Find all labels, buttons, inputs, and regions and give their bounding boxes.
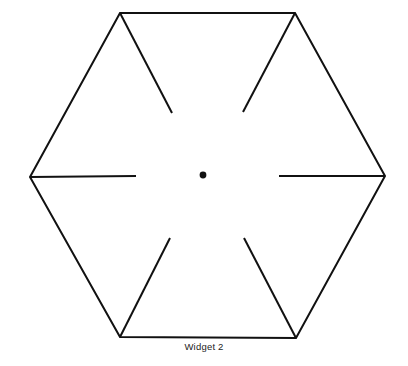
figure-caption: Widget 2	[0, 341, 408, 353]
center-hub-dot	[200, 172, 207, 179]
figure-container: Widget 2	[0, 0, 408, 366]
spokes-group	[30, 13, 385, 338]
spoke-bottom-right	[244, 238, 296, 338]
hexagon-diagram	[0, 0, 408, 366]
spoke-bottom-left	[120, 238, 170, 337]
spoke-left	[30, 176, 136, 177]
spoke-top-left	[120, 13, 172, 113]
spoke-top-right	[243, 13, 295, 112]
